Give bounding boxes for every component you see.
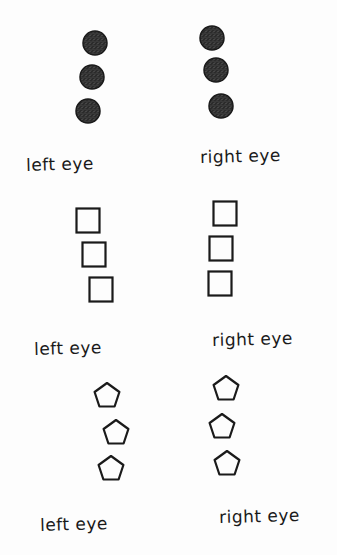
label-left-eye-circles: left eye (26, 153, 94, 175)
right-eye-pentagon-1 (214, 376, 239, 400)
left-eye-pentagon-1 (95, 383, 120, 407)
shapes-layer (0, 0, 337, 555)
right-eye-square-2 (210, 237, 233, 261)
right-eye-circle-2 (204, 58, 228, 82)
label-left-eye-pentagons: left eye (40, 513, 108, 535)
right-eye-circle-1 (200, 26, 224, 50)
right-eye-pentagon-2 (210, 414, 235, 438)
eye-diagram: left eye right eye left eye right eye le… (0, 0, 337, 555)
right-eye-circle-3 (209, 94, 233, 118)
left-eye-circle-1 (83, 31, 107, 55)
left-eye-square-1 (77, 209, 100, 233)
right-eye-square-1 (214, 202, 237, 226)
label-right-eye-circles: right eye (200, 145, 281, 167)
label-left-eye-squares: left eye (34, 337, 102, 359)
left-eye-square-2 (83, 243, 106, 267)
label-right-eye-squares: right eye (212, 328, 293, 350)
right-eye-square-3 (209, 272, 232, 296)
left-eye-circle-3 (76, 99, 100, 123)
left-eye-square-3 (90, 278, 113, 302)
label-right-eye-pentagons: right eye (219, 505, 300, 527)
left-eye-circle-2 (80, 65, 104, 89)
left-eye-pentagon-2 (104, 420, 129, 444)
right-eye-pentagon-3 (215, 451, 240, 475)
left-eye-pentagon-3 (99, 456, 124, 480)
